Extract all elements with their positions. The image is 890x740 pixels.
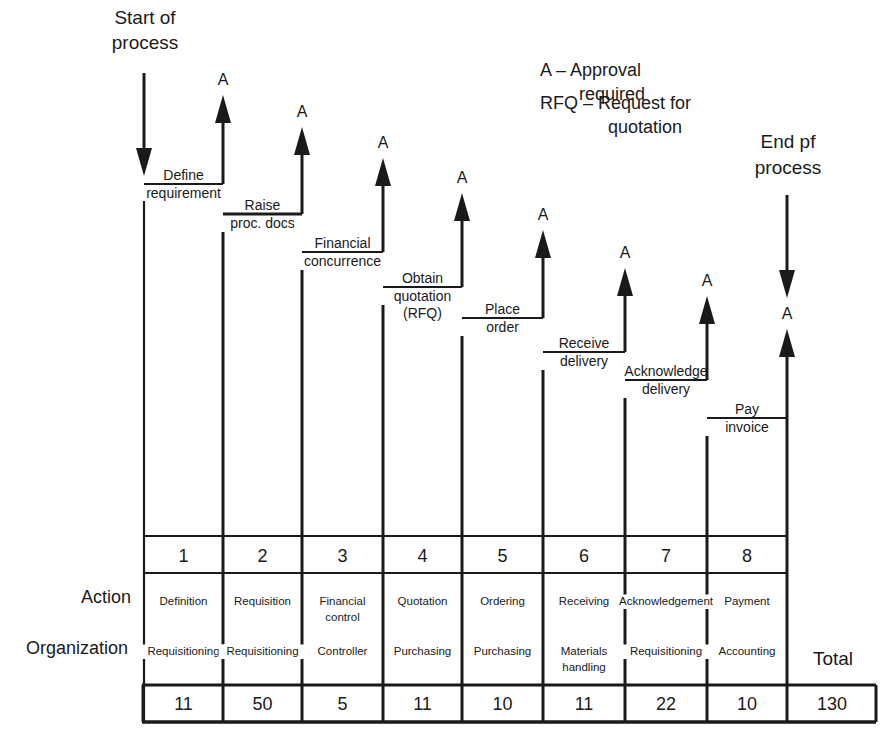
- action-cell: Receiving: [559, 595, 610, 607]
- time-cell: 50: [252, 694, 272, 714]
- step-label-5: Place: [485, 301, 520, 317]
- approval-arrow-up-icon: [617, 268, 633, 296]
- step-number-5: 5: [497, 546, 507, 566]
- organization-cell: handling: [562, 661, 605, 673]
- procurement-process-diagram: Start ofprocessEnd pfprocessA – Approval…: [0, 0, 890, 740]
- start-arrow-down-icon: [136, 148, 152, 176]
- legend-rfq: quotation: [608, 117, 682, 137]
- approval-marker: A: [702, 272, 713, 289]
- step-number-2: 2: [257, 546, 267, 566]
- start-label: Start of: [114, 7, 176, 28]
- action-cell: Acknowledgement: [619, 595, 714, 607]
- row-label-total: Total: [813, 648, 853, 669]
- approval-arrow-up-icon: [454, 193, 470, 221]
- action-cell: Ordering: [480, 595, 525, 607]
- end-label: process: [755, 157, 822, 178]
- step-label-5: order: [486, 319, 519, 335]
- step-label-8: invoice: [725, 419, 769, 435]
- approval-marker: A: [457, 169, 468, 186]
- approval-marker: A: [620, 244, 631, 261]
- approval-arrow-up-icon: [375, 158, 391, 186]
- step-number-3: 3: [337, 546, 347, 566]
- step-number-1: 1: [178, 546, 188, 566]
- approval-arrow-up-icon: [535, 230, 551, 258]
- total-value: 130: [817, 694, 847, 714]
- organization-cell: Purchasing: [474, 645, 532, 657]
- action-cell: Quotation: [398, 595, 448, 607]
- legend-rfq: RFQ – Request for: [540, 93, 691, 113]
- time-cell: 11: [413, 694, 432, 714]
- end-arrow-down-icon: [779, 270, 795, 298]
- approval-marker: A: [538, 206, 549, 223]
- step-label-4: Obtain: [402, 270, 443, 286]
- step-label-4: quotation: [394, 288, 452, 304]
- organization-cell: Requisitioning: [226, 645, 298, 657]
- approval-marker: A: [297, 103, 308, 120]
- step-label-3: Financial: [314, 235, 370, 251]
- approval-arrow-up-icon: [215, 95, 231, 123]
- organization-cell: Materials: [561, 645, 608, 657]
- time-cell: 11: [174, 694, 193, 714]
- action-cell: control: [325, 611, 360, 623]
- step-label-7: Acknowledge: [624, 363, 707, 379]
- approval-marker: A: [782, 305, 793, 322]
- time-cell: 22: [656, 694, 676, 714]
- step-label-2: proc. docs: [230, 215, 295, 231]
- step-label-6: delivery: [560, 353, 608, 369]
- organization-cell: Purchasing: [394, 645, 452, 657]
- step-label-1: requirement: [146, 185, 221, 201]
- step-label-7: delivery: [642, 381, 690, 397]
- row-label-action: Action: [81, 587, 131, 607]
- action-cell: Requisition: [234, 595, 291, 607]
- step-number-8: 8: [742, 546, 752, 566]
- time-cell: 11: [575, 694, 594, 714]
- step-label-6: Receive: [559, 335, 610, 351]
- step-label-8: Pay: [735, 401, 759, 417]
- time-cell: 10: [492, 694, 512, 714]
- step-label-2: Raise: [245, 197, 281, 213]
- approval-marker: A: [218, 71, 229, 88]
- step-number-6: 6: [579, 546, 589, 566]
- end-label: End pf: [761, 131, 817, 152]
- legend-approval: A – Approval: [540, 60, 641, 80]
- organization-cell: Controller: [318, 645, 368, 657]
- step-label-1: Define: [163, 167, 204, 183]
- row-label-organization: Organization: [26, 638, 128, 658]
- approval-arrow-up-icon: [294, 127, 310, 155]
- time-cell: 5: [337, 694, 347, 714]
- approval-marker: A: [378, 134, 389, 151]
- step-number-7: 7: [661, 546, 671, 566]
- step-number-4: 4: [417, 546, 427, 566]
- organization-cell: Requisitioning: [147, 645, 219, 657]
- start-label: process: [112, 32, 179, 53]
- organization-cell: Requisitioning: [630, 645, 702, 657]
- approval-arrow-up-icon: [699, 296, 715, 324]
- action-cell: Payment: [724, 595, 770, 607]
- approval-arrow-up-icon: [779, 329, 795, 357]
- step-label-4: (RFQ): [403, 305, 442, 321]
- action-cell: Financial: [319, 595, 365, 607]
- organization-cell: Accounting: [719, 645, 776, 657]
- time-cell: 10: [737, 694, 757, 714]
- step-label-3: concurrence: [304, 253, 381, 269]
- action-cell: Definition: [160, 595, 208, 607]
